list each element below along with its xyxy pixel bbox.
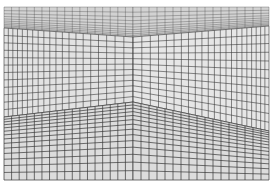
- left-wall: [4, 28, 133, 117]
- grid-room-image: [0, 0, 276, 187]
